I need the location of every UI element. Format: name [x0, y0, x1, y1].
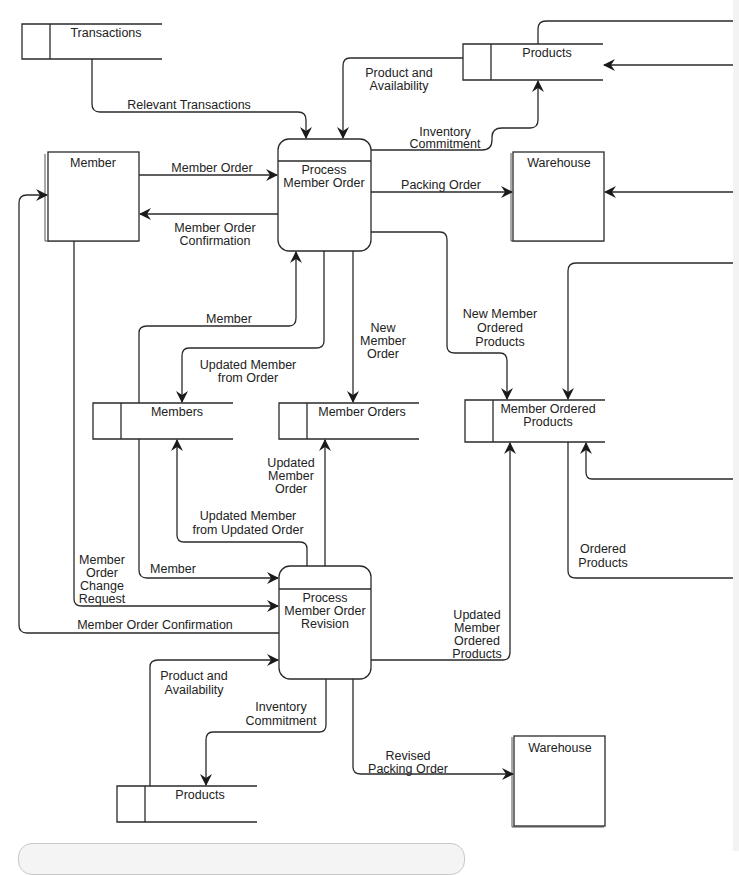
datastore-member-orders[interactable]: Member Orders [279, 403, 419, 439]
process-label: Member Order [284, 604, 365, 618]
svg-text:Updated: Updated [453, 608, 500, 622]
flow-member-order-confirmation-bottom: Member Order Confirmation [19, 195, 279, 633]
svg-text:Member Order: Member Order [174, 221, 255, 235]
entity-label: Warehouse [528, 741, 592, 755]
process-label: Member Order [283, 176, 364, 190]
caption-box [18, 843, 465, 875]
svg-text:Product and: Product and [160, 669, 227, 683]
datastore-label: Products [522, 46, 571, 60]
flow-updated-member-order: Updated Member Order [267, 440, 325, 566]
datastore-member-ordered-products[interactable]: Member Ordered Products [465, 400, 605, 442]
flow-revised-packing-order: Revised Packing Order [353, 679, 513, 776]
flow-member-order: Member Order [139, 161, 277, 175]
flow-relevant-transactions: Relevant Transactions [92, 59, 306, 138]
svg-text:New: New [370, 321, 396, 335]
svg-text:Packing Order: Packing Order [368, 762, 448, 776]
svg-text:Member: Member [79, 553, 125, 567]
svg-text:Member: Member [268, 469, 314, 483]
svg-text:Packing Order: Packing Order [401, 178, 481, 192]
flow-member-order-change-request: Member Order Change Request [74, 241, 278, 606]
svg-text:Revised: Revised [385, 749, 430, 763]
process-label: Process [301, 163, 346, 177]
svg-text:Member Order Confirmation: Member Order Confirmation [77, 618, 233, 632]
datastore-products-top[interactable]: Products [463, 44, 603, 80]
svg-text:Commitment: Commitment [410, 137, 481, 151]
datastore-label: Member Ordered [500, 402, 595, 416]
svg-text:Confirmation: Confirmation [180, 234, 251, 248]
datastore-products-bottom[interactable]: Products [117, 786, 257, 822]
process-label: Revision [301, 617, 349, 631]
entity-warehouse-bottom[interactable]: Warehouse [512, 736, 605, 827]
svg-text:Availability: Availability [165, 683, 225, 697]
entity-member[interactable]: Member [45, 152, 139, 241]
svg-text:Ordered: Ordered [477, 321, 523, 335]
svg-text:Ordered: Ordered [580, 542, 626, 556]
flow-new-member-ordered-products: New Member Ordered Products [371, 232, 537, 399]
svg-text:Member Order: Member Order [171, 161, 252, 175]
svg-text:Order: Order [86, 566, 118, 580]
svg-text:Ordered: Ordered [454, 634, 500, 648]
datastore-members[interactable]: Members [93, 403, 233, 439]
svg-text:Relevant Transactions: Relevant Transactions [127, 98, 251, 112]
svg-text:Products: Products [475, 335, 524, 349]
flow-inventory-commitment-bottom: Inventory Commitment [206, 679, 326, 785]
svg-text:New Member: New Member [463, 307, 537, 321]
datastore-transactions[interactable]: Transactions [22, 24, 162, 59]
svg-text:Products: Products [578, 556, 627, 570]
svg-text:Products: Products [452, 647, 501, 661]
flow-new-member-order: New Member Order [353, 251, 406, 402]
svg-text:Updated Member: Updated Member [200, 509, 297, 523]
flow-external-into-member-ordered-products [568, 263, 733, 479]
svg-text:Order: Order [367, 347, 399, 361]
datastore-label: Member Orders [318, 405, 406, 419]
svg-text:Updated: Updated [267, 456, 314, 470]
process-member-order[interactable]: Process Member Order [278, 139, 371, 251]
svg-text:Order: Order [275, 482, 307, 496]
svg-text:Product and: Product and [365, 66, 432, 80]
entity-label: Warehouse [527, 156, 591, 170]
flow-updated-member-ordered-products: Updated Member Ordered Products [371, 443, 510, 661]
datastore-label: Products [175, 788, 224, 802]
entity-warehouse-top[interactable]: Warehouse [511, 152, 604, 241]
svg-text:Updated Member: Updated Member [200, 358, 297, 372]
datastore-label: Transactions [70, 26, 141, 40]
svg-text:Member: Member [454, 621, 500, 635]
svg-text:Inventory: Inventory [255, 700, 307, 714]
svg-text:from Order: from Order [218, 371, 278, 385]
svg-text:Change: Change [80, 579, 124, 593]
svg-text:Request: Request [79, 592, 126, 606]
process-label: Process [302, 591, 347, 605]
svg-text:Member: Member [150, 562, 196, 576]
datastore-label: Members [151, 405, 203, 419]
svg-text:Availability: Availability [370, 79, 430, 93]
entity-label: Member [70, 156, 116, 170]
svg-text:from Updated Order: from Updated Order [192, 523, 303, 537]
flow-packing-order: Packing Order [371, 178, 512, 192]
flow-ordered-products: Ordered Products [568, 442, 733, 578]
datastore-label: Products [523, 415, 572, 429]
flow-member-order-confirmation-top: Member Order Confirmation [140, 214, 278, 248]
svg-text:Member: Member [360, 334, 406, 348]
process-member-order-revision[interactable]: Process Member Order Revision [279, 566, 371, 679]
svg-text:Commitment: Commitment [246, 714, 317, 728]
svg-text:Member: Member [206, 312, 252, 326]
